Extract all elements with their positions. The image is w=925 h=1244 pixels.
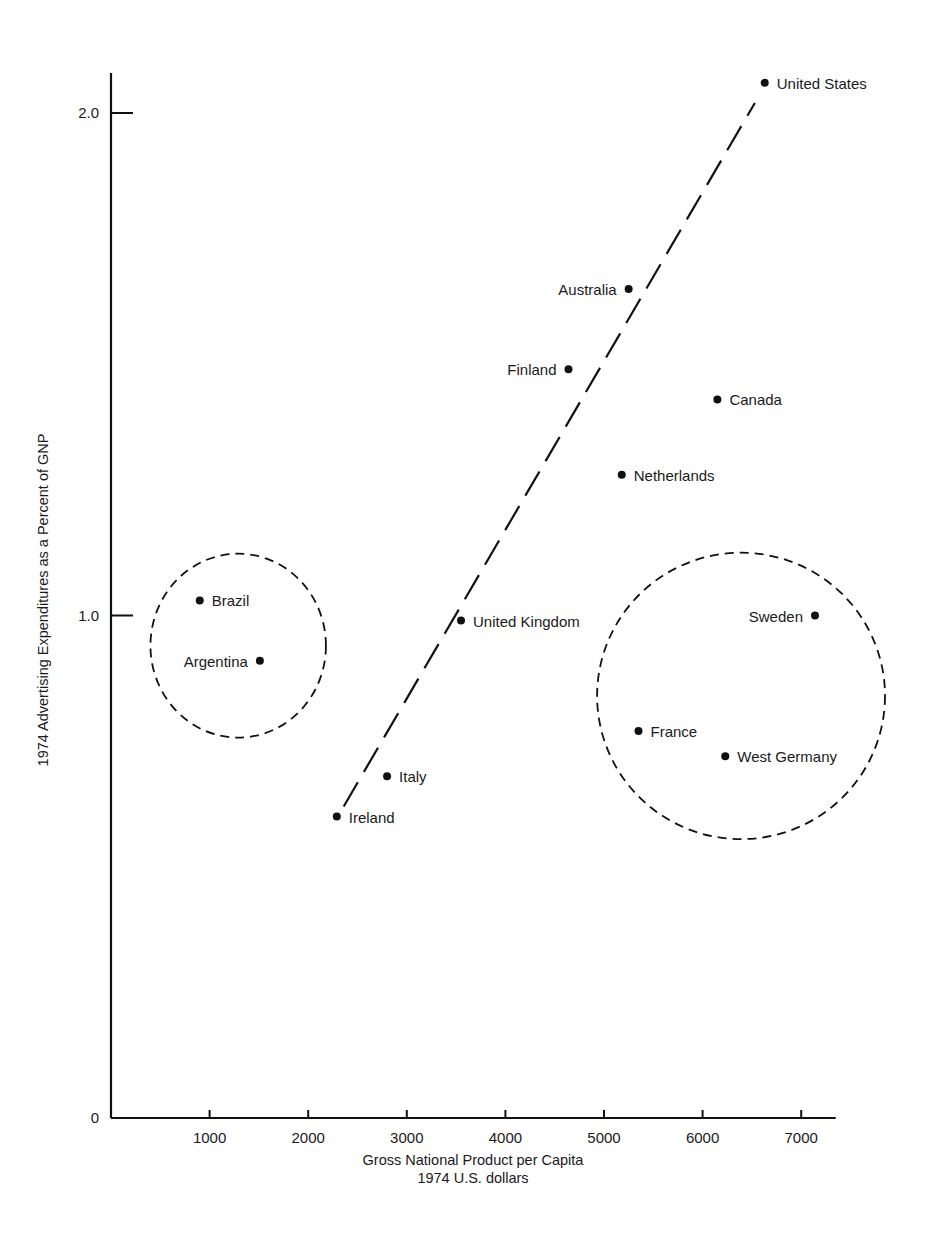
x-tick-label: 1000 [193,1129,226,1146]
data-points: United StatesAustraliaFinlandCanadaNethe… [184,75,867,826]
point-west-germany [721,752,729,760]
x-tick-label: 4000 [489,1129,522,1146]
low-gnp-cluster-ellipse [150,554,326,738]
cluster-ellipses [150,553,885,839]
x-axis-title: Gross National Product per Capita [363,1152,585,1168]
scatter-chart: 1000200030004000500060007000 01.02.0 Uni… [0,0,925,1244]
point-label-italy: Italy [399,768,427,785]
y-axis-title: 1974 Advertising Expenditures as a Perce… [35,434,51,767]
x-tick-label: 3000 [390,1129,423,1146]
x-tick-label: 7000 [785,1129,818,1146]
point-argentina [256,657,264,665]
point-label-ireland: Ireland [349,809,395,826]
point-italy [383,772,391,780]
x-ticks: 1000200030004000500060007000 [193,1110,818,1146]
point-france [635,727,643,735]
x-axis-subtitle: 1974 U.S. dollars [417,1170,528,1186]
high-gnp-cluster-ellipse [597,553,885,839]
point-label-netherlands: Netherlands [634,467,715,484]
y-tick-label: 2.0 [78,104,99,121]
point-united-kingdom [457,617,465,625]
point-netherlands [618,471,626,479]
x-tick-label: 5000 [587,1129,620,1146]
point-sweden [811,612,819,620]
point-label-united-kingdom: United Kingdom [473,613,580,630]
x-tick-label: 2000 [292,1129,325,1146]
point-canada [713,395,721,403]
y-tick-label: 1.0 [78,607,99,624]
point-brazil [196,596,204,604]
point-australia [625,285,633,293]
point-label-finland: Finland [507,361,556,378]
x-tick-label: 6000 [686,1129,719,1146]
point-label-argentina: Argentina [184,653,249,670]
point-label-france: France [651,723,698,740]
point-label-sweden: Sweden [749,608,803,625]
y-tick-label: 0 [91,1109,99,1126]
point-ireland [333,813,341,821]
point-label-west-germany: West Germany [737,748,837,765]
point-united-states [761,79,769,87]
point-label-australia: Australia [558,281,617,298]
point-label-united-states: United States [777,75,867,92]
point-label-canada: Canada [729,391,782,408]
point-label-brazil: Brazil [212,592,250,609]
trend-line [344,103,755,807]
point-finland [565,365,573,373]
y-ticks: 01.02.0 [78,104,133,1126]
